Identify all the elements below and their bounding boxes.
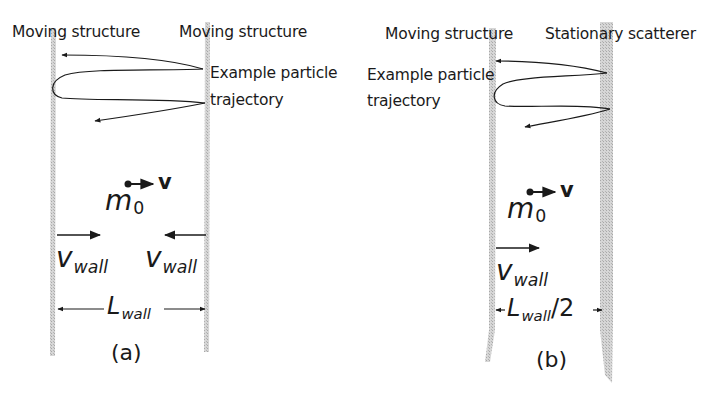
panel-a-right-wall-velocity: vwall (145, 241, 197, 277)
panel-a-trajectory-label-line2: trajectory (210, 91, 283, 109)
panel-b-caption: (b) (536, 347, 567, 372)
panel-a-left-wall-label: Moving structure (12, 23, 140, 41)
panel-a-trajectory-label-line1: Example particle (210, 64, 337, 82)
panel-a-right-wall-label: Moving structure (179, 23, 307, 41)
panel-b-stationary-scatterer (600, 22, 613, 383)
panel-a-particle-mass: m0 (105, 184, 144, 218)
panel-a-left-wall (50, 28, 56, 356)
panel-b-velocity-symbol: v (560, 178, 574, 202)
panel-b-trajectory (494, 61, 610, 127)
panel-b-particle-mass: m0 (507, 192, 546, 226)
panel-b-left-wall-label: Moving structure (385, 25, 513, 43)
panel-b-right-wall-label: Stationary scatterer (545, 25, 696, 43)
panel-a-separation-label: Lwall (107, 292, 151, 323)
panel-a-trajectory (53, 55, 205, 121)
panel-b-trajectory-label-line1: Example particle (367, 66, 494, 84)
panel-b-separation-label: Lwall/2 (507, 294, 574, 325)
panel-a-left-wall-velocity: vwall (56, 241, 108, 277)
panel-b-wall-velocity: vwall (496, 254, 548, 290)
panel-a-velocity-symbol: v (158, 170, 172, 194)
panel-b-trajectory-label-line2: trajectory (367, 92, 440, 110)
panel-a-caption: (a) (111, 340, 142, 365)
